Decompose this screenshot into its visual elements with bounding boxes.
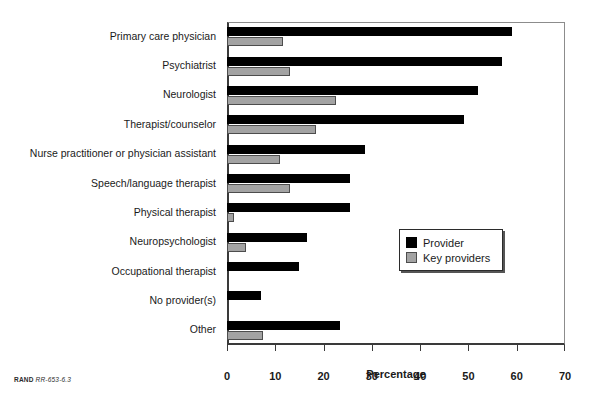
x-axis-tick — [564, 345, 565, 351]
bar-provider — [227, 291, 261, 300]
category-label: Occupational therapist — [0, 265, 222, 277]
bar-provider — [227, 321, 340, 330]
legend-item-key-providers: Key providers — [406, 250, 495, 265]
source-credit: RANDRR-653-6.3 — [14, 376, 71, 383]
bar-key-providers — [227, 125, 316, 134]
legend-item-provider: Provider — [406, 235, 495, 250]
x-axis-tick — [517, 345, 518, 351]
bar-key-providers — [227, 155, 280, 164]
category-label: Psychiatrist — [0, 59, 222, 71]
category-axis-labels: Primary care physicianPsychiatristNeurol… — [0, 22, 222, 345]
legend-swatch-provider — [406, 237, 417, 248]
source-document-id: RR-653-6.3 — [36, 376, 72, 383]
bar-provider — [227, 262, 299, 271]
bar-provider — [227, 145, 365, 154]
legend: Provider Key providers — [399, 229, 503, 271]
x-axis: 010203040506070 — [227, 22, 565, 82]
bar-key-providers — [227, 96, 336, 105]
bar-provider — [227, 233, 307, 242]
bar-provider — [227, 174, 350, 183]
legend-label-key-providers: Key providers — [423, 252, 490, 264]
category-label: Nurse practitioner or physician assistan… — [0, 147, 222, 159]
category-label: Physical therapist — [0, 206, 222, 218]
category-label: Other — [0, 323, 222, 335]
category-label: Neuropsychologist — [0, 235, 222, 247]
figure-container: Primary care physicianPsychiatristNeurol… — [0, 0, 598, 406]
category-label: Speech/language therapist — [0, 177, 222, 189]
x-axis-tick — [324, 345, 325, 351]
bar-provider — [227, 115, 464, 124]
source-brand: RAND — [14, 376, 34, 383]
x-axis-tick — [420, 345, 421, 351]
category-label: Primary care physician — [0, 30, 222, 42]
bar-provider — [227, 86, 478, 95]
x-axis-tick — [468, 345, 469, 351]
x-axis-title: Percentage — [227, 368, 565, 380]
category-label: No provider(s) — [0, 294, 222, 306]
category-label: Therapist/counselor — [0, 118, 222, 130]
x-axis-tick — [227, 345, 228, 351]
legend-label-provider: Provider — [423, 237, 464, 249]
bar-provider — [227, 203, 350, 212]
category-label: Neurologist — [0, 88, 222, 100]
bar-key-providers — [227, 331, 263, 340]
x-axis-tick — [275, 345, 276, 351]
bar-key-providers — [227, 213, 234, 222]
bar-key-providers — [227, 184, 290, 193]
bar-key-providers — [227, 243, 246, 252]
x-axis-tick — [372, 345, 373, 351]
legend-swatch-key-providers — [406, 252, 417, 263]
